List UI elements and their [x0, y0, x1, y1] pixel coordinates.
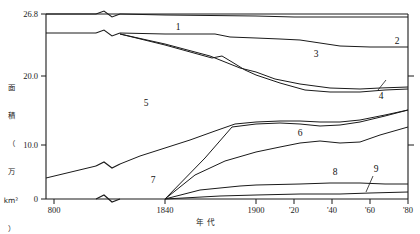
x-axis-ticks: [54, 199, 408, 204]
x-tick-label-1920: '20: [289, 205, 299, 215]
chart-figure: 26.8 20.0 10.0 0 800 1840 1900 '20 '40 '…: [0, 0, 420, 234]
x-tick-label-1980: '80: [403, 205, 413, 215]
y-tick-label-0: 0: [34, 194, 38, 204]
y-axis-ticks: [41, 14, 46, 199]
y-tick-label-200: 20.0: [23, 71, 38, 81]
series-label-2: 2: [395, 36, 400, 46]
y-axis-title-char-3: 万: [3, 167, 19, 176]
series-label-5: 5: [144, 98, 149, 108]
area-chart-svg: 26.8 20.0 10.0 0 800 1840 1900 '20 '40 '…: [0, 0, 420, 234]
series-line-7: [46, 127, 408, 199]
series-line-4: [120, 34, 408, 92]
y-tick-label-268: 26.8: [23, 9, 38, 19]
y-tick-label-100: 10.0: [23, 140, 38, 150]
y-axis-title-char-0: 面: [3, 83, 19, 92]
series-label-9: 9: [374, 164, 379, 174]
series-label-6: 6: [298, 128, 303, 138]
y-axis-title-char-2: （: [3, 139, 19, 148]
series-label-8: 8: [333, 167, 338, 177]
series-line-2: [46, 30, 408, 47]
series-label-4: 4: [379, 91, 384, 101]
series-line-9: [165, 192, 408, 199]
x-tick-label-1960: '60: [365, 205, 375, 215]
x-axis-title: 年代: [196, 216, 217, 227]
x-tick-label-1840: 1840: [157, 205, 174, 215]
series-label-7: 7: [151, 175, 156, 185]
series-label-1: 1: [176, 22, 181, 32]
y-axis-title-char-1: 積: [3, 111, 19, 120]
y-axis-title-char-4: km²: [3, 196, 19, 205]
y-axis-title: 面 積 （ 万 km² ）: [3, 64, 19, 234]
plot-frame: [46, 14, 408, 199]
x-tick-label-800: 800: [48, 205, 61, 215]
y-axis-ticks-right: [408, 76, 414, 145]
leader-line-4: [378, 80, 386, 90]
series-line-5: [46, 110, 408, 178]
leader-line-9: [366, 176, 373, 192]
x-tick-label-1900: 1900: [248, 205, 265, 215]
series-line-6: [165, 110, 408, 199]
series-label-3: 3: [314, 49, 319, 59]
y-axis-title-char-5: ）: [3, 224, 19, 233]
series-line-3: [46, 33, 408, 89]
x-tick-label-1940: '40: [327, 205, 337, 215]
